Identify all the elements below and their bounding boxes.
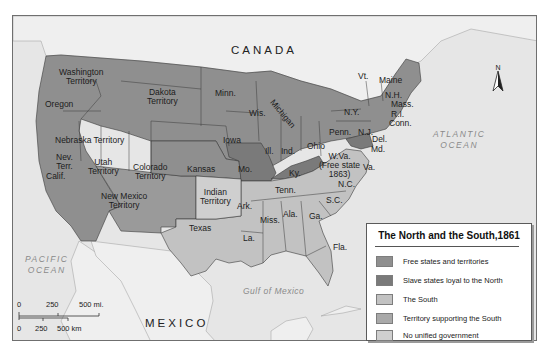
legend-item-no-government: No unified government: [376, 329, 478, 341]
legend-divider: [375, 246, 519, 247]
label-fla: Fla.: [333, 243, 347, 252]
label-indian-territory: Indian Territory: [200, 188, 231, 206]
legend-swatch-south: [376, 294, 393, 305]
label-kansas: Kansas: [187, 165, 215, 174]
label-wva: W.Va. (Free state 1863): [319, 152, 360, 179]
label-pacific-ocean: PACIFIC OCEAN: [25, 254, 68, 276]
label-ny: N.Y.: [344, 108, 359, 117]
label-ind: Ind.: [281, 147, 295, 156]
map-legend: The North and the South,1861 Free states…: [366, 223, 532, 341]
label-washington: Washington Territory: [59, 68, 104, 86]
scale-bar: 0 250 500 mi. 0 250 500 km: [15, 300, 115, 340]
label-ohio: Ohio: [307, 142, 325, 151]
label-gulf-of-mexico: Gulf of Mexico: [243, 286, 304, 296]
scale-mi-0: 0: [17, 300, 21, 309]
legend-item-territory-south: Territory supporting the South: [376, 312, 501, 324]
label-conn: Conn.: [389, 119, 412, 128]
label-mo: Mo.: [238, 165, 252, 174]
label-nev: Nev. Terr.: [56, 153, 73, 171]
label-mexico: MEXICO: [145, 317, 208, 329]
label-minn: Minn.: [215, 89, 236, 98]
label-penn: Penn.: [329, 128, 351, 137]
north-arrow-icon: N: [492, 64, 504, 94]
scale-km-0: 0: [17, 324, 21, 333]
label-mass: Mass.: [391, 100, 414, 109]
legend-item-free: Free states and territories: [376, 255, 488, 267]
label-vt: Vt.: [358, 72, 368, 81]
label-ill: Ill.: [265, 147, 274, 156]
legend-title: The North and the South,1861: [367, 230, 531, 241]
label-tenn: Tenn.: [275, 186, 296, 195]
label-nebraska: Nebraska Territory: [55, 136, 124, 145]
label-sc: S.C.: [326, 196, 343, 205]
label-la: La.: [243, 234, 255, 243]
label-texas: Texas: [189, 224, 211, 233]
label-ala: Ala.: [283, 210, 298, 219]
label-canada: CANADA: [231, 44, 297, 56]
label-nc: N.C.: [338, 180, 355, 189]
legend-swatch-slave-loyal: [376, 275, 393, 286]
legend-item-slave-loyal: Slave states loyal to the North: [376, 274, 503, 286]
label-ark: Ark.: [237, 202, 252, 211]
label-md: Md.: [371, 145, 385, 154]
label-oregon: Oregon: [45, 100, 73, 109]
legend-swatch-no-government: [376, 330, 393, 341]
scale-mi-500: 500 mi.: [79, 300, 104, 309]
label-colorado: Colorado Territory: [133, 163, 168, 181]
legend-swatch-territory-south: [376, 313, 393, 324]
label-iowa: Iowa: [223, 136, 241, 145]
label-nj: N.J.: [358, 128, 373, 137]
label-ky: Ky.: [289, 169, 301, 178]
label-atlantic-ocean: ATLANTIC OCEAN: [433, 129, 485, 151]
scale-mi-250: 250: [46, 300, 59, 309]
label-maine: Maine: [379, 76, 402, 85]
label-calif: Calif.: [46, 172, 65, 181]
scale-km-250: 250: [35, 324, 48, 333]
scale-km-500: 500 km: [57, 324, 82, 333]
label-miss: Miss.: [260, 216, 280, 225]
label-ga: Ga.: [309, 212, 323, 221]
legend-item-south: The South: [376, 293, 438, 305]
legend-swatch-free: [376, 256, 393, 267]
label-wis: Wis.: [249, 109, 266, 118]
label-va: Va.: [363, 163, 375, 172]
label-new-mexico: New Mexico Territory: [101, 192, 147, 210]
label-utah: Utah Territory: [88, 158, 119, 176]
label-del: Del.: [372, 135, 387, 144]
label-dakota: Dakota Territory: [147, 88, 178, 106]
